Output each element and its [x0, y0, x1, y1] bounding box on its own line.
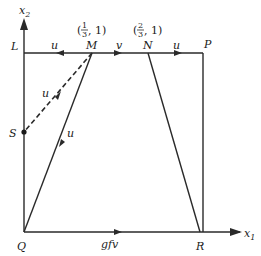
arrow-MQ-icon: [59, 139, 65, 147]
x2-axis: [20, 18, 28, 232]
arrow-QR-icon: [114, 229, 122, 235]
point-Q-label: Q: [17, 240, 26, 253]
x1-axis-label: x1: [244, 227, 255, 242]
svg-text:3: 3: [82, 30, 87, 39]
edge-label-MN: v: [116, 39, 123, 52]
edge-label-QR: gfv: [101, 238, 119, 251]
edge-MQ: [24, 53, 92, 232]
svg-text:(: (: [133, 24, 137, 37]
edge-label-ML: u: [51, 39, 58, 52]
coord-label-N: ( 2 3 , 1): [133, 21, 162, 39]
edge-label-NP: u: [173, 39, 180, 52]
point-S-dot: [21, 129, 26, 134]
svg-text:(: (: [77, 24, 81, 37]
x2-axis-arrow-icon: [20, 18, 28, 30]
point-M-label: M: [85, 39, 98, 52]
svg-text:1: 1: [82, 21, 87, 30]
point-P-label: P: [203, 38, 212, 51]
point-L-label: L: [10, 40, 18, 53]
coord-label-M: ( 1 3 , 1): [77, 21, 106, 39]
edge-MS-dashed: [24, 53, 92, 132]
x1-axis-arrow-icon: [230, 228, 242, 236]
edge-label-MQ: u: [67, 127, 74, 140]
point-R-label: R: [195, 240, 204, 253]
x1-axis: [24, 228, 242, 236]
edge-label-MS: u: [42, 87, 49, 100]
point-S-label: S: [9, 127, 17, 140]
point-N-label: N: [142, 39, 153, 52]
svg-text:3: 3: [138, 30, 143, 39]
svg-text:, 1): , 1): [88, 24, 106, 37]
diagram-canvas: x2 x1 L M N P Q R S ( 1 3 , 1) ( 2 3 , 1…: [0, 0, 261, 256]
edge-NR: [148, 53, 200, 232]
svg-text:2: 2: [138, 21, 143, 30]
x2-axis-label: x2: [19, 4, 30, 19]
svg-text:, 1): , 1): [144, 24, 162, 37]
